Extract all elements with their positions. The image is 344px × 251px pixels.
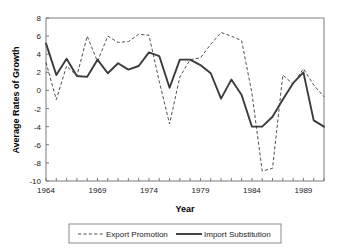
legend-label-export-promotion: Export Promotion [106, 230, 168, 239]
growth-rates-line-chart: 86420-2-4-6-8-10 19641969197419791984198… [0, 0, 344, 251]
y-tick-label: -4 [34, 123, 42, 132]
x-tick-label: 1964 [37, 186, 55, 195]
y-tick-label: 4 [37, 50, 42, 59]
legend-label-import-substitution: Import Substitution [204, 230, 271, 239]
chart-background [0, 0, 344, 251]
legend: Export Promotion Import Substitution [69, 224, 281, 243]
y-tick-label: 2 [37, 68, 42, 77]
y-tick-label: -8 [34, 159, 42, 168]
y-tick-label: 0 [37, 86, 42, 95]
y-tick-label: 6 [37, 32, 42, 41]
x-tick-label: 1989 [295, 186, 313, 195]
y-axis-title: Average Rates of Growth [11, 46, 21, 153]
x-tick-label: 1974 [140, 186, 158, 195]
y-tick-label: -10 [29, 177, 41, 186]
y-tick-label: 8 [37, 14, 42, 23]
x-tick-label: 1979 [192, 186, 210, 195]
x-tick-label: 1969 [89, 186, 107, 195]
y-tick-label: -6 [34, 141, 42, 150]
y-tick-label: -2 [34, 105, 42, 114]
x-axis-title: Year [175, 204, 195, 214]
x-tick-label: 1984 [243, 186, 261, 195]
